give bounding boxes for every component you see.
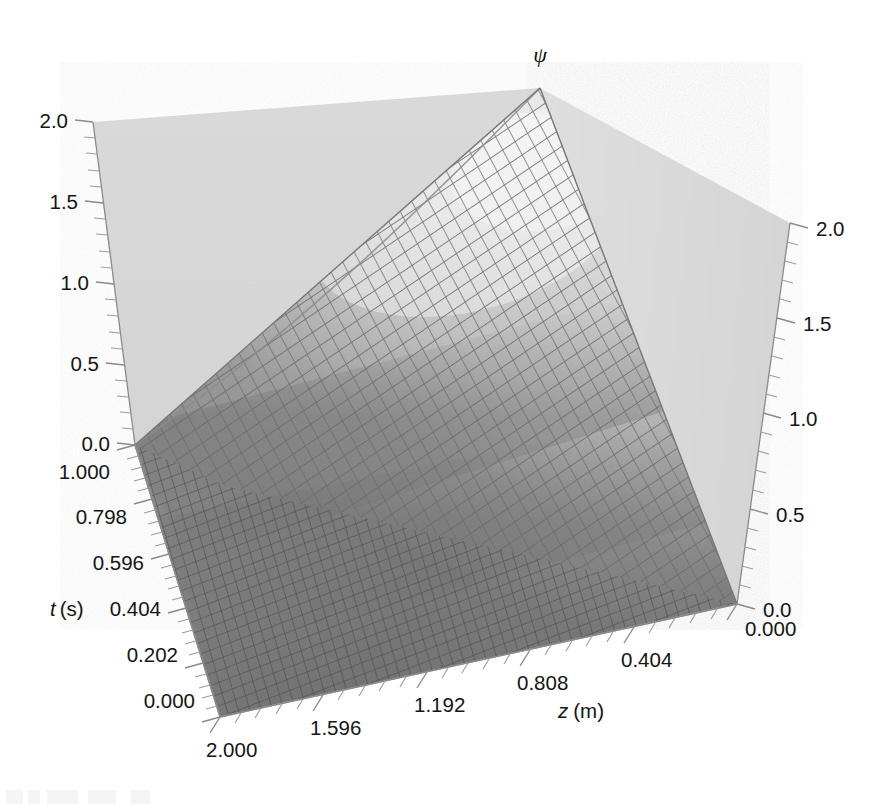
psi-left-tick-3: 0.5 xyxy=(71,352,100,375)
psi-left-tick-0: 2.0 xyxy=(40,109,69,132)
axis-title-z-unit: (m) xyxy=(573,699,604,722)
psi-axis-label: ψ xyxy=(533,42,547,67)
psi-left-tick-4: 0.0 xyxy=(82,432,111,455)
z-tick-5: 0.000 xyxy=(745,617,796,640)
t-tick-3: 0.404 xyxy=(110,597,161,620)
t-tick-1: 0.798 xyxy=(76,505,127,528)
psi-left-tick-1: 1.5 xyxy=(50,190,79,213)
t-tick-5: 0.000 xyxy=(144,689,195,712)
plot-canvas: 2.0 1.5 1.0 0.5 0.0 xyxy=(0,0,873,806)
z-tick-3: 0.808 xyxy=(517,671,568,694)
axis-title-t-unit: (s) xyxy=(60,597,84,620)
z-tick-0: 2.000 xyxy=(206,738,257,761)
psi-right-tick-3: 0.5 xyxy=(776,503,805,526)
z-tick-2: 1.192 xyxy=(414,693,465,716)
figure-3d-surface-plot: 2.0 1.5 1.0 0.5 0.0 xyxy=(0,0,873,806)
t-tick-0: 1.000 xyxy=(59,460,110,483)
axis-title-z: z(m) xyxy=(557,699,604,722)
psi-right-tick-1: 1.5 xyxy=(803,312,832,335)
psi-right-tick-0: 2.0 xyxy=(816,217,845,240)
psi-left-tick-2: 1.0 xyxy=(61,271,90,294)
axis-title-t-var: t xyxy=(50,597,57,620)
psi-right-tick-2: 1.0 xyxy=(789,407,818,430)
t-tick-2: 0.596 xyxy=(93,551,144,574)
z-tick-4: 0.404 xyxy=(621,648,672,671)
z-tick-1: 1.596 xyxy=(310,716,361,739)
axis-title-t: t(s) xyxy=(50,597,84,620)
axis-title-z-var: z xyxy=(557,699,568,722)
t-tick-4: 0.202 xyxy=(127,643,178,666)
